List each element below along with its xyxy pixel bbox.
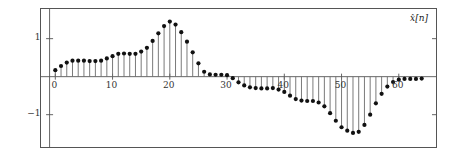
data-point [116,52,120,56]
data-point [202,70,206,74]
data-point [162,24,166,28]
data-point [299,99,303,103]
data-point [317,100,321,104]
series-label-index: [n] [415,13,428,23]
data-point [128,52,132,56]
data-point [265,86,269,90]
data-point [305,99,309,103]
stem-plot-figure: x[n] 1−10102030405060 [0,0,453,161]
data-point [139,49,143,53]
data-point [345,129,349,133]
data-point [225,73,229,77]
data-point [53,68,57,72]
data-point [408,77,412,81]
data-point [93,59,97,63]
data-point [288,94,292,98]
data-point [380,92,384,96]
x-tick-label-0: 0 [44,80,64,90]
x-tick-label-4: 40 [273,80,293,90]
data-point [151,39,155,43]
plot-frame: x[n] [40,8,437,148]
data-point [82,59,86,63]
data-point [110,54,114,58]
series-label-symbol: x [410,13,415,23]
data-point [99,59,103,63]
data-point [414,77,418,81]
data-point [219,73,223,77]
data-point [168,19,172,23]
data-point [179,30,183,34]
stem-series [53,19,424,135]
series-label: x[n] [410,13,428,23]
data-point [214,73,218,77]
data-point [242,83,246,87]
y-tick-label-0: 1 [19,32,41,42]
data-point [208,72,212,76]
data-point [133,52,137,56]
x-tick-label-1: 10 [102,80,122,90]
data-point [76,59,80,63]
x-tick-label-3: 30 [216,80,236,90]
data-point [357,130,361,134]
data-point [334,119,338,123]
data-point [156,31,160,35]
data-point [59,64,63,68]
x-tick-label-2: 20 [159,80,179,90]
data-point [196,61,200,65]
data-point [185,40,189,44]
x-tick-label-6: 60 [388,80,408,90]
data-point [259,86,263,90]
data-point [294,97,298,101]
data-point [339,125,343,129]
data-point [311,99,315,103]
data-point [254,86,258,90]
data-point [105,56,109,60]
data-point [122,51,126,55]
y-tick-label-1: −1 [19,108,41,118]
data-point [191,50,195,54]
data-point [282,90,286,94]
data-point [173,22,177,26]
data-point [88,59,92,63]
data-point [420,76,424,80]
data-point [328,111,332,115]
data-point [322,104,326,108]
data-point [351,131,355,135]
data-point [65,61,69,65]
data-point [368,113,372,117]
plot-area [41,9,436,147]
data-point [374,101,378,105]
data-point [145,46,149,50]
x-tick-label-5: 50 [331,80,351,90]
data-point [236,80,240,84]
data-point [362,123,366,127]
data-point [70,59,74,63]
data-point [248,85,252,89]
